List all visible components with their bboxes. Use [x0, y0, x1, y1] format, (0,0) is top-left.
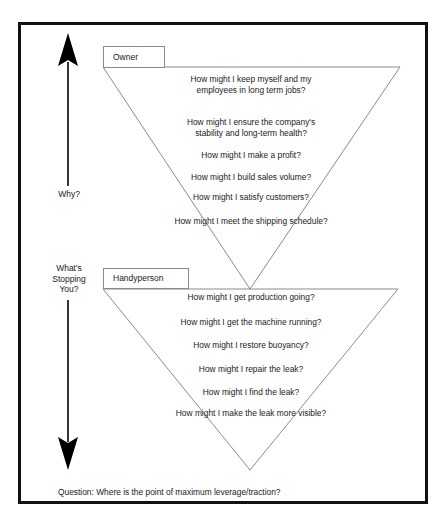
owner-tab-label: Owner [113, 53, 138, 62]
question-item: How might I get production going? [140, 292, 362, 303]
question-item: How might I restore buoyancy? [140, 340, 362, 351]
question-item: How might I repair the leak? [140, 364, 362, 375]
question-item: How might I find the leak? [140, 387, 362, 398]
handyperson-question-list: How might I get production going? How mi… [0, 0, 447, 530]
handyperson-tab-label: Handyperson [113, 274, 164, 283]
question-item: How might I get the machine running? [140, 317, 362, 328]
diagram-canvas: Why? What's Stopping You? Owner Handyper… [0, 0, 447, 530]
handyperson-tab[interactable]: Handyperson [103, 268, 189, 289]
owner-tab[interactable]: Owner [103, 46, 165, 68]
question-item: How might I make the leak more visible? [140, 408, 362, 419]
